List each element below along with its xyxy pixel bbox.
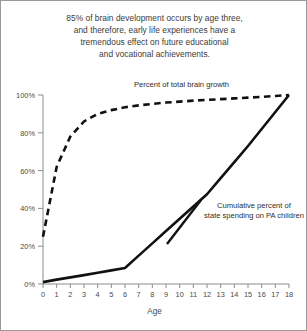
x-axis-tick-label: 3 [77, 290, 91, 299]
annotation-state-spending: Cumulative percent of state spending on … [204, 201, 304, 222]
x-axis-tick-label: 4 [91, 290, 105, 299]
chart-container: 85% of brain development occurs by age t… [0, 0, 307, 331]
axis-lines [43, 95, 289, 284]
x-axis-tick-label: 11 [186, 290, 200, 299]
series-state-spending-line [43, 95, 289, 282]
x-axis-tick-label: 6 [118, 290, 132, 299]
x-axis-ticks [43, 284, 289, 288]
x-axis-tick-label: 15 [241, 290, 255, 299]
x-axis-tick-label: 18 [282, 290, 296, 299]
y-axis-tick-label: 100% [9, 91, 35, 100]
y-axis-ticks [38, 95, 43, 284]
x-axis-tick-label: 10 [173, 290, 187, 299]
y-axis-tick-label: 60% [9, 167, 35, 176]
x-axis-tick-label: 7 [132, 290, 146, 299]
x-axis-tick-label: 13 [214, 290, 228, 299]
annotation-state-spending-line: Cumulative percent of [204, 201, 304, 211]
y-axis-tick-label: 20% [9, 242, 35, 251]
x-axis-tick-label: 12 [200, 290, 214, 299]
y-axis-tick-label: 40% [9, 204, 35, 213]
annotation-state-spending-line: state spending on PA children [204, 211, 304, 221]
x-axis-tick-label: 9 [159, 290, 173, 299]
y-axis-tick-label: 0% [9, 280, 35, 289]
x-axis-tick-label: 1 [50, 290, 64, 299]
x-axis-tick-label: 16 [255, 290, 269, 299]
y-axis-tick-label: 80% [9, 129, 35, 138]
chart-plot [1, 1, 307, 331]
x-axis-tick-label: 0 [36, 290, 50, 299]
x-axis-tick-label: 5 [104, 290, 118, 299]
x-axis-title: Age [1, 307, 307, 316]
annotation-brain-growth: Percent of total brain growth [134, 80, 229, 90]
x-axis-tick-label: 2 [63, 290, 77, 299]
annotation-leader-line [167, 200, 201, 244]
x-axis-tick-label: 14 [227, 290, 241, 299]
x-axis-tick-label: 8 [145, 290, 159, 299]
x-axis-tick-label: 17 [268, 290, 282, 299]
